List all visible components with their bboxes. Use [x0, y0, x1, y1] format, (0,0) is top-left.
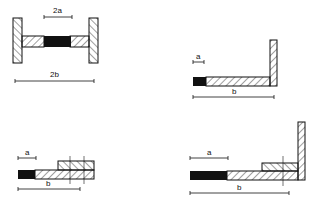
dim-a-label: a — [25, 148, 30, 157]
horizontal-leg — [206, 77, 270, 86]
web-right — [70, 36, 89, 47]
top-step — [58, 161, 94, 170]
crack-region — [190, 171, 227, 180]
left-flange — [13, 18, 22, 63]
crack-region — [44, 36, 71, 47]
dim-b-label: b — [232, 87, 237, 96]
vertical-leg — [270, 40, 277, 86]
crack-region — [18, 170, 35, 179]
dim-a-label: a — [207, 148, 212, 157]
figure-stepped-bar: a b — [18, 148, 94, 189]
right-flange — [89, 18, 98, 63]
figure-l-section: a b — [193, 40, 277, 97]
top-step — [262, 163, 298, 171]
web-left — [22, 36, 44, 47]
crack-region — [193, 77, 206, 86]
dim-a-label: a — [196, 52, 201, 61]
bottom-bar — [35, 170, 94, 179]
bottom-bar — [227, 171, 298, 180]
vertical-leg — [298, 122, 305, 180]
figure-i-section: 2a 2b — [13, 6, 98, 81]
dim-2b-label: 2b — [50, 70, 59, 79]
dim-2a-label: 2a — [53, 6, 62, 15]
figure-stepped-l-section: a b — [190, 122, 305, 193]
dim-b-label: b — [46, 179, 51, 188]
dim-b-label: b — [237, 183, 242, 192]
diagram-canvas: 2a 2b a b a b a b — [0, 0, 315, 201]
